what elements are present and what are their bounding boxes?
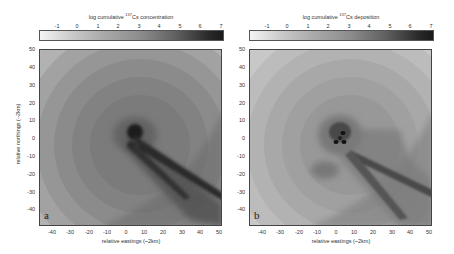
colorbar-tick: 1 [96,23,99,29]
y-tick: 30 [231,82,245,88]
x-tick: 20 [160,229,166,235]
x-tick: 50 [426,229,432,235]
panel-letter-a: a [44,209,49,221]
x-tick: -40 [48,229,56,235]
colorbar-title-b: log cumulative 137Cs deposition [303,12,380,20]
colorbar-b [249,30,434,41]
heatmap-plot-b [249,49,432,226]
x-tick: -30 [66,229,74,235]
x-tick: 10 [351,229,357,235]
colorbar-tick: 4 [367,23,370,29]
y-tick: 10 [21,117,35,123]
y-tick: -10 [231,153,245,159]
y-tick: -20 [231,171,245,177]
colorbar-tick: 6 [408,23,411,29]
colorbar-tick: 0 [285,23,288,29]
colorbar-title-prefix: log cumulative [89,14,126,20]
y-tick: 10 [231,117,245,123]
y-tick: -40 [21,206,35,212]
x-axis-label-a: relative eastings (~2km) [102,238,161,244]
y-tick: 20 [231,100,245,106]
colorbar-tick: 5 [178,23,181,29]
x-tick: 0 [124,229,127,235]
colorbar-tick: 4 [157,23,160,29]
x-tick: -20 [295,229,303,235]
x-tick: 40 [197,229,203,235]
colorbar-tick: 3 [137,23,140,29]
y-tick: 40 [21,64,35,70]
colorbar-tick: 5 [388,23,391,29]
colorbar-a [39,30,224,41]
heatmap-plot-a [39,49,222,226]
y-tick: -10 [21,153,35,159]
colorbar-title-a: log cumulative 137Cs concentration [89,12,174,20]
y-tick: -40 [231,206,245,212]
y-tick: 50 [231,46,245,52]
colorbar-tick: 1 [306,23,309,29]
x-tick: -20 [85,229,93,235]
x-tick: 30 [389,229,395,235]
x-tick: 20 [370,229,376,235]
colorbar-tick: 2 [116,23,119,29]
y-tick: 30 [21,82,35,88]
colorbar-tick: -1 [265,23,270,29]
y-tick: 0 [231,135,245,141]
colorbar-title-suffix: Cs deposition [346,14,379,20]
panel-letter-b: b [254,209,260,221]
x-tick: -10 [103,229,111,235]
colorbar-tick: -1 [55,23,60,29]
x-tick: -40 [258,229,266,235]
colorbar-tick: 7 [429,23,432,29]
y-axis-label-a: relative northings (~2km) [15,94,21,174]
y-tick: 20 [21,100,35,106]
x-tick: -30 [276,229,284,235]
y-tick: 50 [21,46,35,52]
panel-b: log cumulative 137Cs deposition -1 0 1 2… [210,0,437,254]
y-tick: 0 [21,135,35,141]
x-axis-label-b: relative eastings (~2km) [312,238,371,244]
colorbar-tick: 6 [198,23,201,29]
colorbar-title-suffix: Cs concentration [132,14,173,20]
y-tick: -30 [21,189,35,195]
panel-a: log cumulative 137Cs concentration -1 0 … [0,0,227,254]
colorbar-tick: 2 [326,23,329,29]
x-tick: -10 [313,229,321,235]
colorbar-tick: 3 [347,23,350,29]
x-tick: 40 [407,229,413,235]
x-tick: 10 [141,229,147,235]
y-tick: -30 [231,189,245,195]
colorbar-title-prefix: log cumulative [303,14,340,20]
colorbar-tick: 0 [75,23,78,29]
x-tick: 30 [179,229,185,235]
x-tick: 0 [334,229,337,235]
y-tick: 40 [231,64,245,70]
y-tick: -20 [21,171,35,177]
